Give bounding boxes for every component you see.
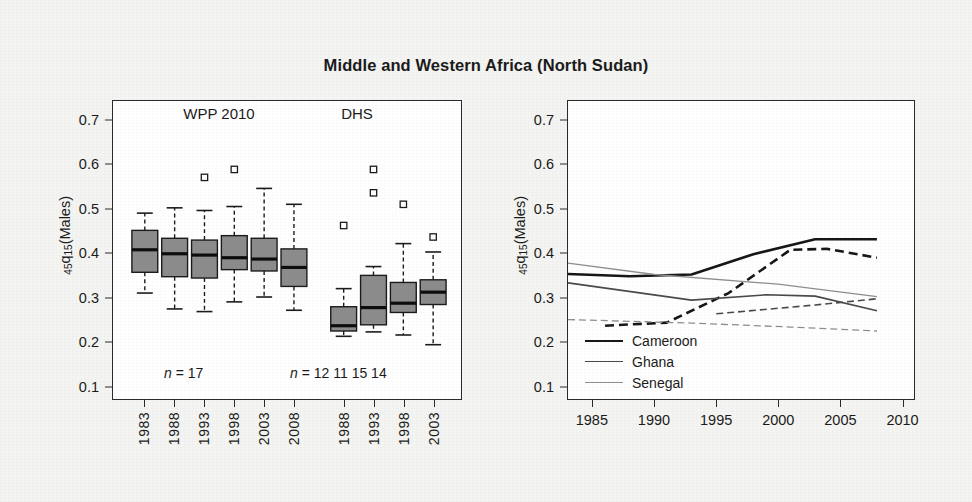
y-axis-tick-label: 0.6	[65, 156, 99, 172]
x-axis-tick-mark	[204, 400, 205, 407]
y-axis-tick-label: 0.3	[65, 290, 99, 306]
x-axis-tick-mark	[144, 400, 145, 407]
x-axis-tick-mark	[778, 400, 779, 407]
boxplot-box	[192, 174, 218, 311]
x-axis-tick-label: 1983	[136, 412, 152, 445]
y-axis-tick-mark	[560, 297, 567, 298]
x-axis-tick-label: 1998	[226, 412, 242, 445]
x-axis-tick-mark	[344, 400, 345, 407]
y-axis-tick-mark	[105, 120, 112, 121]
y-axis-tick-label: 0.3	[520, 290, 554, 306]
y-axis-tick-mark	[560, 164, 567, 165]
x-axis-tick-mark	[592, 400, 593, 407]
y-axis-tick-label: 0.1	[65, 379, 99, 395]
boxplot-canvas	[113, 101, 461, 399]
y-axis-tick-mark	[105, 164, 112, 165]
boxplot-box	[132, 213, 158, 293]
y-axis-tick-mark	[560, 386, 567, 387]
y-axis-tick-mark	[560, 253, 567, 254]
y-axis-tick-mark	[105, 208, 112, 209]
x-axis-tick-label: 2003	[256, 412, 272, 445]
x-axis-tick-mark	[404, 400, 405, 407]
group-header-wpp-2010: WPP 2010	[183, 105, 254, 122]
line-series-cameroon-wpp	[568, 239, 877, 276]
x-axis-tick-mark	[294, 400, 295, 407]
x-axis-tick-label: 2008	[286, 412, 302, 445]
boxplot-box	[420, 234, 446, 345]
x-axis-tick-label: 1990	[627, 412, 681, 428]
x-axis-tick-label: 1998	[396, 412, 412, 445]
x-axis-tick-label: 1993	[366, 412, 382, 445]
boxplot-box	[361, 166, 387, 332]
y-axis-tick-mark	[105, 253, 112, 254]
x-axis-tick-label: 1988	[336, 412, 352, 445]
x-axis-tick-mark	[903, 400, 904, 407]
legend-item-cameroon[interactable]: Cameroon	[585, 330, 697, 351]
legend-label: Ghana	[632, 354, 674, 370]
x-axis-tick-label: 1988	[166, 412, 182, 445]
x-axis-tick-mark	[840, 400, 841, 407]
y-axis-tick-label: 0.2	[65, 334, 99, 350]
legend-swatch-icon	[585, 382, 623, 383]
legend-swatch-icon	[585, 340, 623, 342]
boxplot-box	[281, 204, 307, 310]
legend-swatch-icon	[585, 361, 623, 362]
y-axis-label-left: 45q15(Males)	[57, 196, 74, 275]
boxplot-box	[390, 201, 416, 335]
line-series-ghana-dhs	[716, 299, 877, 314]
y-axis-tick-mark	[560, 120, 567, 121]
x-axis-tick-label: 1993	[196, 412, 212, 445]
x-axis-tick-mark	[174, 400, 175, 407]
boxplot-box	[221, 166, 247, 302]
line-series-senegal-wpp	[568, 263, 877, 297]
y-axis-tick-label: 0.1	[520, 379, 554, 395]
x-axis-tick-label: 1985	[565, 412, 619, 428]
figure-root: Middle and Western Africa (North Sudan) …	[0, 0, 972, 502]
boxplot-box	[251, 188, 277, 297]
y-axis-tick-mark	[105, 342, 112, 343]
y-axis-tick-mark	[105, 297, 112, 298]
y-axis-label-right: 45q15(Males)	[512, 196, 529, 275]
y-axis-tick-mark	[105, 386, 112, 387]
y-axis-tick-label: 0.6	[520, 156, 554, 172]
legend-label: Cameroon	[632, 333, 697, 349]
x-axis-tick-label: 2000	[751, 412, 805, 428]
line-series-cameroon-dhs	[605, 249, 877, 326]
sample-size-annotation: n = 17	[164, 365, 203, 381]
legend: CameroonGhanaSenegal	[585, 330, 697, 393]
y-axis-tick-label: 0.7	[65, 112, 99, 128]
line-series-ghana-wpp	[568, 283, 877, 311]
boxplot-panel	[112, 100, 462, 400]
group-header-dhs: DHS	[341, 105, 373, 122]
x-axis-tick-label: 2010	[876, 412, 930, 428]
boxplot-box	[162, 208, 188, 309]
x-axis-tick-mark	[716, 400, 717, 407]
x-axis-tick-label: 2003	[426, 412, 442, 445]
x-axis-tick-mark	[654, 400, 655, 407]
y-axis-tick-mark	[560, 208, 567, 209]
sample-size-annotation: n = 12 11 15 14	[290, 365, 387, 381]
legend-item-ghana[interactable]: Ghana	[585, 351, 697, 372]
x-axis-tick-mark	[264, 400, 265, 407]
x-axis-tick-mark	[434, 400, 435, 407]
page-title: Middle and Western Africa (North Sudan)	[0, 56, 972, 75]
x-axis-tick-mark	[374, 400, 375, 407]
legend-item-senegal[interactable]: Senegal	[585, 372, 697, 393]
y-axis-tick-mark	[560, 342, 567, 343]
boxplot-box	[331, 222, 357, 336]
y-axis-tick-label: 0.2	[520, 334, 554, 350]
y-axis-tick-label: 0.7	[520, 112, 554, 128]
x-axis-tick-label: 2005	[813, 412, 867, 428]
legend-label: Senegal	[632, 375, 683, 391]
x-axis-tick-label: 1995	[689, 412, 743, 428]
x-axis-tick-mark	[234, 400, 235, 407]
